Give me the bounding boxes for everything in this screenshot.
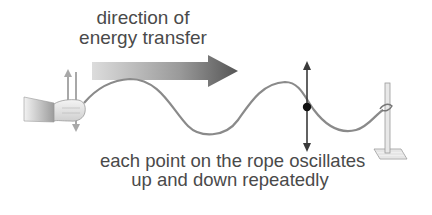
clamp-stand-icon (374, 83, 407, 159)
oscillation-description-line2: up and down repeatedly (100, 170, 360, 189)
oscillation-description-line1: each point on the rope oscillates (100, 151, 360, 170)
oscillation-description-label: each point on the rope oscillates up and… (100, 151, 360, 190)
hand-icon (24, 97, 85, 122)
rope-wave (84, 79, 383, 134)
rope-point-marker (303, 103, 311, 111)
